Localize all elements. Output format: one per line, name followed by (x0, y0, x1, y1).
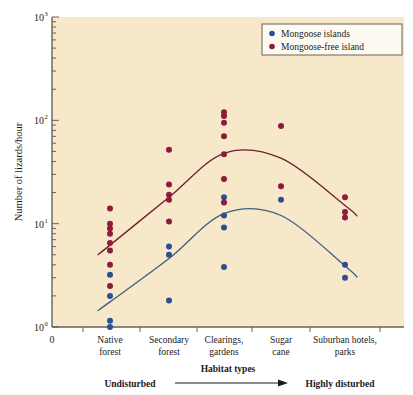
data-point (166, 181, 172, 187)
data-point (278, 197, 284, 203)
y-tick-exponent: 1 (45, 217, 48, 224)
data-point (107, 247, 113, 253)
x-category-label: Native (97, 335, 122, 345)
data-point (221, 151, 227, 157)
data-point (107, 240, 113, 246)
y-axis-title-text: Number of lizards/hour (13, 122, 24, 221)
lizard-abundance-scatter-chart: 1001011021030 Number of lizards/hour Nat… (0, 0, 413, 395)
legend-marker-icon (269, 44, 275, 50)
data-point (221, 194, 227, 200)
data-point (342, 214, 348, 220)
y-tick-label: 10 (34, 115, 44, 126)
data-point (107, 293, 113, 299)
y-tick-exponent: 2 (45, 113, 48, 120)
y-axis-title: Number of lizards/hour (13, 122, 24, 221)
data-point (221, 133, 227, 139)
data-point (107, 318, 113, 324)
x-category-label: Clearings, (205, 335, 244, 345)
data-point (221, 264, 227, 270)
data-point (166, 197, 172, 203)
x-axis-title-text: Habitat types (201, 364, 256, 374)
data-point (166, 218, 172, 224)
data-point (107, 262, 113, 268)
x-category-label: forest (158, 347, 180, 357)
data-point (221, 200, 227, 206)
y-tick-label: 10 (34, 322, 44, 333)
x-category-label: Suburban hotels, (313, 335, 377, 345)
data-point (107, 206, 113, 212)
data-point (278, 123, 284, 129)
legend-marker-icon (269, 31, 275, 37)
x-category-label: parks (335, 347, 356, 357)
data-point (342, 209, 348, 215)
y-tick-label: 10 (34, 219, 44, 230)
data-point (221, 120, 227, 126)
data-point (221, 212, 227, 218)
data-point (221, 224, 227, 230)
data-point (107, 324, 113, 330)
x-category-label: cane (272, 347, 289, 357)
highly-disturbed-label: Highly disturbed (306, 379, 376, 389)
data-point (166, 244, 172, 250)
plot-background (52, 17, 404, 327)
undisturbed-label: Undisturbed (104, 379, 156, 389)
data-point (278, 183, 284, 189)
x-category-label: Sugar (270, 335, 293, 345)
data-point (342, 194, 348, 200)
x-category-label: Secondary (149, 335, 189, 345)
plot-area-background (52, 17, 404, 327)
data-point (166, 147, 172, 153)
y-tick-exponent: 3 (45, 10, 48, 17)
x-category-label: gardens (209, 347, 239, 357)
legend-label: Mongoose islands (281, 29, 350, 39)
x-axis-annotations: Habitat typesUndisturbedHighly disturbed (104, 364, 375, 389)
data-point (107, 225, 113, 231)
data-point (166, 298, 172, 304)
x-axis-category-labels: NativeforestSecondaryforestClearings,gar… (97, 335, 377, 357)
legend-label: Mongoose-free island (281, 42, 364, 52)
data-point (166, 252, 172, 258)
disturbance-gradient-arrow-head (278, 380, 288, 387)
data-point (342, 275, 348, 281)
figure-container: 1001011021030 Number of lizards/hour Nat… (0, 0, 413, 395)
y-tick-exponent: 0 (45, 320, 48, 327)
data-point (107, 283, 113, 289)
chart-legend: Mongoose islandsMongoose-free island (262, 24, 402, 55)
data-point (342, 262, 348, 268)
data-point (107, 231, 113, 237)
data-point (221, 113, 227, 119)
x-origin-label: 0 (50, 334, 55, 345)
data-point (221, 176, 227, 182)
x-category-label: forest (99, 347, 121, 357)
y-tick-label: 10 (34, 12, 44, 23)
data-point (107, 272, 113, 278)
